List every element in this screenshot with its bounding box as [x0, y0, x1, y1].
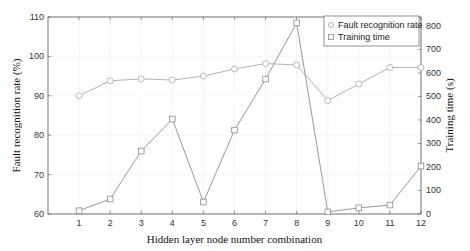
circle-marker [418, 64, 424, 70]
square-marker [76, 208, 82, 214]
circle-marker [325, 98, 331, 104]
y2-tick-label: 500 [426, 91, 441, 101]
x-tick-label: 6 [232, 218, 237, 228]
x-axis-label: Hidden layer node number combination [147, 233, 323, 245]
circle-marker [107, 78, 113, 84]
y-tick-label: 100 [29, 51, 44, 61]
legend: Fault recognition rate Training time [324, 16, 423, 46]
y2-tick-label: 300 [426, 138, 441, 148]
circle-marker [387, 64, 393, 70]
y-tick-label: 110 [30, 12, 44, 22]
data-series [76, 20, 424, 215]
square-marker [418, 163, 424, 169]
x-tick-label: 9 [325, 218, 330, 228]
grid-lines [48, 17, 421, 214]
y-tick-label: 80 [34, 130, 44, 140]
x-tick-label: 4 [170, 218, 175, 228]
square-marker [201, 199, 207, 205]
y-tick-label: 60 [34, 209, 44, 219]
y2-tick-label: 100 [426, 185, 441, 195]
square-marker [138, 148, 144, 154]
y2-tick-label: 200 [426, 162, 441, 172]
y-axis-left-label: Fault recognition rate (%) [10, 58, 23, 172]
y2-tick-label: 800 [426, 21, 441, 31]
series-line-0 [79, 63, 421, 100]
square-marker [325, 209, 331, 215]
y2-tick-label: 0 [426, 209, 431, 219]
square-marker [356, 205, 362, 211]
x-tick-label: 12 [416, 218, 426, 228]
circle-marker [200, 73, 206, 79]
square-marker [107, 196, 113, 202]
x-tick-label: 7 [263, 218, 268, 228]
circle-marker [138, 76, 144, 82]
y-tick-label: 70 [34, 170, 44, 180]
dual-axis-line-chart: 1234567891011126070809010011001002003004… [0, 0, 470, 251]
x-tick-label: 3 [139, 218, 144, 228]
square-marker [170, 116, 176, 122]
series-line-1 [79, 23, 421, 212]
x-tick-label: 11 [385, 218, 394, 228]
circle-marker [294, 62, 300, 68]
circle-marker [263, 60, 269, 66]
x-tick-label: 10 [354, 218, 364, 228]
square-marker [232, 127, 238, 133]
y2-tick-label: 700 [426, 44, 441, 54]
square-marker [294, 20, 300, 26]
circle-marker [356, 81, 362, 87]
circle-marker [232, 66, 238, 72]
square-marker [387, 202, 393, 208]
square-marker [263, 76, 269, 82]
circle-marker [76, 93, 82, 99]
x-tick-label: 8 [294, 218, 299, 228]
x-tick-label: 1 [77, 218, 82, 228]
legend-label-fault-recognition-rate: Fault recognition rate [338, 20, 423, 30]
y2-tick-label: 600 [426, 68, 441, 78]
x-tick-label: 2 [108, 218, 113, 228]
x-tick-label: 5 [201, 218, 206, 228]
y-axis-right-label: Training time (s) [443, 78, 456, 152]
legend-label-training-time: Training time [338, 32, 390, 42]
y-tick-label: 90 [34, 91, 44, 101]
y2-tick-label: 400 [426, 115, 441, 125]
circle-marker [169, 77, 175, 83]
